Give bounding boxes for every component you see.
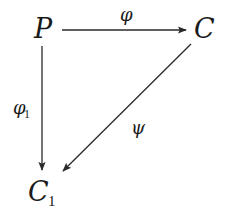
label-phi: φ: [120, 4, 133, 25]
node-C1-subscript: 1: [48, 193, 56, 209]
label-psi: ψ: [131, 117, 146, 138]
node-C1-base: C: [28, 176, 49, 207]
node-P: P: [33, 13, 53, 44]
commutative-diagram: P C C 1 φ φ 1 ψ: [0, 0, 227, 213]
label-phi1: φ 1: [13, 97, 30, 121]
node-C: C: [194, 13, 215, 44]
node-C1: C 1: [28, 176, 56, 209]
arrow-psi: [63, 44, 191, 171]
label-phi1-subscript: 1: [24, 107, 30, 121]
